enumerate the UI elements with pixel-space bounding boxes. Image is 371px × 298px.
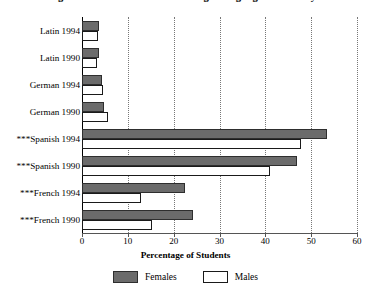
bar-females [82, 183, 185, 193]
bar-group [82, 125, 357, 152]
legend-entry-males: Males [203, 271, 258, 283]
x-tick-label-60: 60 [342, 236, 371, 246]
bar-males [82, 193, 141, 203]
chart-legend: Females Males [0, 271, 371, 283]
y-axis-label: German 1990 [0, 107, 80, 117]
y-axis-label: ***French 1994 [0, 188, 80, 198]
y-axis-label: ***Spanish 1994 [0, 134, 80, 144]
bar-group [82, 206, 357, 233]
bar-females [82, 102, 104, 112]
bar-females [82, 210, 193, 220]
bar-males [82, 85, 103, 95]
x-tick-label-40: 40 [250, 236, 280, 246]
bar-males [82, 139, 301, 149]
y-axis-label: German 1994 [0, 80, 80, 90]
bar-females [82, 75, 102, 85]
bar-females [82, 129, 327, 139]
y-axis-label: ***French 1990 [0, 215, 80, 225]
bar-males [82, 58, 97, 68]
bar-chart-figure: Percentage of Students Enrolled in Forei… [0, 0, 371, 298]
x-tick-label-0: 0 [67, 236, 97, 246]
males-swatch-icon [203, 271, 228, 283]
x-tick-label-50: 50 [296, 236, 326, 246]
x-axis-title: Percentage of Students [0, 250, 371, 260]
bar-females [82, 21, 99, 31]
bar-males [82, 166, 270, 176]
chart-title: Percentage of Students Enrolled in Forei… [0, 0, 371, 2]
y-axis-label: ***Spanish 1990 [0, 161, 80, 171]
bar-males [82, 112, 108, 122]
bar-group [82, 71, 357, 98]
x-tick-label-10: 10 [113, 236, 143, 246]
bar-group [82, 179, 357, 206]
bar-males [82, 220, 152, 230]
bar-females [82, 156, 297, 166]
legend-label-females: Females [145, 272, 177, 282]
bar-group [82, 44, 357, 71]
bar-males [82, 31, 98, 41]
bar-females [82, 48, 99, 58]
y-axis-label-list: Latin 1994Latin 1990German 1994German 19… [0, 17, 80, 233]
legend-label-males: Males [235, 272, 258, 282]
x-tick-label-20: 20 [159, 236, 189, 246]
bar-group [82, 152, 357, 179]
bars-layer [82, 17, 357, 233]
gridline-60 [357, 17, 358, 233]
females-swatch-icon [113, 271, 138, 283]
y-axis-label: Latin 1994 [0, 26, 80, 36]
bar-group [82, 17, 357, 44]
plot-area [82, 17, 357, 233]
legend-entry-females: Females [113, 271, 177, 283]
bar-group [82, 98, 357, 125]
x-tick-label-30: 30 [205, 236, 235, 246]
y-axis-label: Latin 1990 [0, 53, 80, 63]
